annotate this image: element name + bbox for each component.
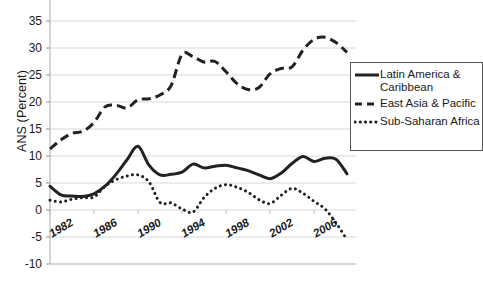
y-axis-tick-label: 5 (8, 176, 42, 190)
legend-swatch-dotted-icon (354, 115, 380, 129)
legend-label-sub-saharan: Sub-Saharan Africa (380, 115, 480, 128)
y-axis-tick-label: -5 (8, 230, 42, 244)
legend-label-east-asia: East Asia & Pacific (380, 97, 476, 110)
series-line (50, 146, 347, 196)
legend-label-latin-america-line1: Latin America & (380, 68, 461, 80)
y-axis-tick-label: 25 (8, 68, 42, 82)
legend-swatch-dashed-icon (354, 97, 380, 111)
series-lines (50, 37, 347, 240)
y-axis-tick-label: 30 (8, 41, 42, 55)
legend-item-east-asia-pacific: East Asia & Pacific (354, 97, 482, 111)
y-axis-tick-label: 35 (8, 14, 42, 28)
legend-item-latin-america-caribbean: Latin America & Caribbean (354, 68, 482, 93)
y-axis-tick-label: -10 (8, 257, 42, 271)
legend-label-latin-america-line2: Caribbean (380, 81, 433, 93)
y-axis-tick-label: 10 (8, 149, 42, 163)
y-axis-tick-label: 0 (8, 203, 42, 217)
series-line (50, 37, 347, 149)
legend: Latin America & Caribbean East Asia & Pa… (350, 62, 483, 151)
legend-item-sub-saharan-africa: Sub-Saharan Africa (354, 115, 482, 129)
y-axis-tick-label: 15 (8, 122, 42, 136)
legend-swatch-solid-icon (354, 68, 380, 82)
y-axis-tick-label: 20 (8, 95, 42, 109)
ans-percent-line-chart: ANS (Percent) 35302520151050-5-10 198219… (0, 0, 483, 285)
